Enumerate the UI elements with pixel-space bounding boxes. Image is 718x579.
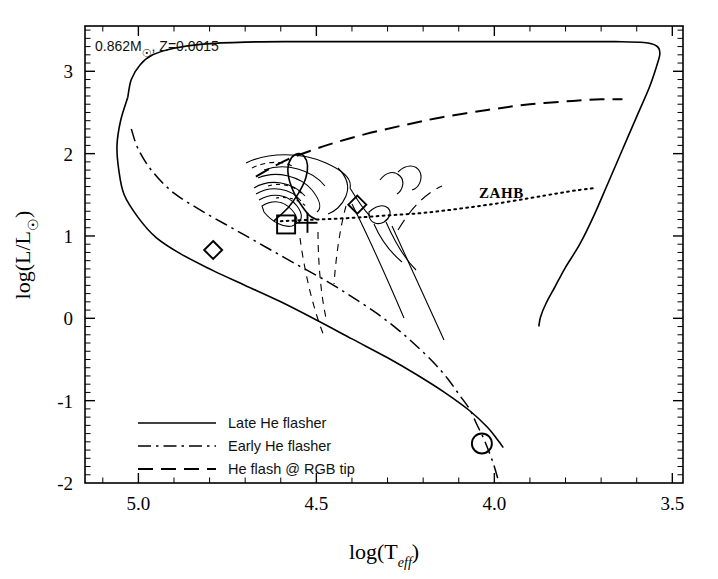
y-tick-label: 3 xyxy=(64,61,74,82)
model-mass: 0.862M xyxy=(95,38,142,54)
x-axis-tick-labels: 5.04.54.03.5 xyxy=(127,493,685,514)
zahb-label: ZAHB xyxy=(479,185,524,201)
y-tick-label: 0 xyxy=(64,308,74,329)
x-title-suffix: ) xyxy=(412,539,419,564)
model-metallicity: , Z=0.0015 xyxy=(152,38,220,54)
x-title-prefix: log(T xyxy=(349,539,398,564)
hr-diagram-figure: 5.04.54.03.5 -2-10123 xyxy=(0,0,718,579)
y-title-sun-symbol: ☉ xyxy=(26,218,41,231)
x-tick-label: 4.0 xyxy=(482,493,506,514)
sun-symbol: ☉ xyxy=(142,47,152,59)
y-tick-label: -2 xyxy=(57,473,73,494)
plot-frame xyxy=(85,26,683,483)
legend-label: He flash @ RGB tip xyxy=(228,461,355,477)
y-tick-label: -1 xyxy=(57,391,73,412)
y-title-suffix: ) xyxy=(10,211,35,218)
x-tick-label: 3.5 xyxy=(660,493,684,514)
x-axis-title: log(Teff) xyxy=(349,539,419,570)
y-tick-label: 2 xyxy=(64,144,74,165)
plot-canvas: 5.04.54.03.5 -2-10123 xyxy=(0,0,718,579)
legend-label: Late He flasher xyxy=(228,415,327,431)
y-axis-title: log(L/L☉) xyxy=(10,211,41,300)
x-tick-label: 4.5 xyxy=(304,493,328,514)
y-tick-label: 1 xyxy=(64,226,74,247)
y-title-prefix: log(L/L xyxy=(10,231,35,299)
y-axis-tick-labels: -2-10123 xyxy=(57,61,73,494)
legend-label: Early He flasher xyxy=(228,438,331,454)
x-tick-label: 5.0 xyxy=(127,493,151,514)
